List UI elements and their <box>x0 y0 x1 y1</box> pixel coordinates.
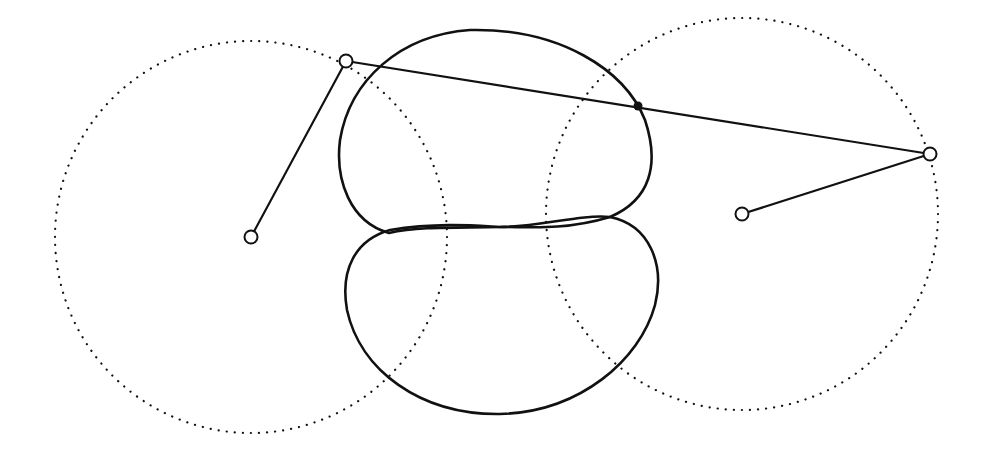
left-moving-joint-icon <box>340 55 353 68</box>
right-fixed-pivot-icon <box>736 208 749 221</box>
coupler-curve-lower-lobe <box>345 217 658 414</box>
coupler-curve-upper-lobe <box>339 30 652 233</box>
left-fixed-pivot-icon <box>245 231 258 244</box>
right-crank-rod <box>742 154 930 214</box>
linkage-diagram <box>0 0 998 460</box>
right-moving-joint-icon <box>924 148 937 161</box>
left-crank-rod <box>251 61 346 237</box>
tracer-point <box>634 102 643 111</box>
